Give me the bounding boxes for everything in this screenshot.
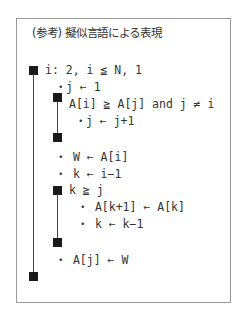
loop-end-marker-inner1 (53, 133, 62, 142)
loop-end-marker-outer (29, 272, 38, 281)
loop-line-inner1 (57, 101, 58, 135)
code-line-while-k: k ≧ j (69, 183, 104, 197)
title: (参考) 擬似言語による表現 (32, 24, 161, 40)
code-line-assign-w: ・ W ← A[i] (55, 150, 128, 164)
code-line-assign-j: ・j ← 1 (55, 80, 101, 94)
code-line-increment-j: ・j ← j+1 (75, 114, 134, 128)
loop-line-inner2 (57, 194, 58, 240)
code-line-decrement-k: ・ k ← k−1 (77, 217, 143, 231)
code-line-assign-k: ・ k ← i−1 (55, 167, 121, 181)
code-line-loop-header: i: 2, i ≦ N, 1 (45, 63, 142, 77)
loop-line-outer (33, 74, 34, 274)
code-line-assign-aj: ・ A[j] ← W (55, 253, 128, 267)
loop-end-marker-inner2 (53, 238, 62, 247)
code-line-while-condition: A[i] ≧ A[j] and j ≠ i (69, 97, 214, 111)
code-line-shift: ・ A[k+1] ← A[k] (77, 200, 185, 214)
